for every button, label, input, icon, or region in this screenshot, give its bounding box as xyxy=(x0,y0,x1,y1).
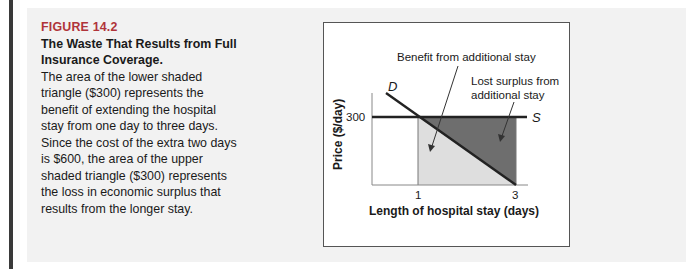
x-tick-3: 3 xyxy=(512,189,518,201)
x-axis-title: Length of hospital stay (days) xyxy=(369,204,539,218)
x-tick-1: 1 xyxy=(415,189,421,201)
chart: Benefit from additional stay Lost surplu… xyxy=(0,0,694,269)
y-axis-title: Price ($/day) xyxy=(331,99,345,170)
supply-label: S xyxy=(532,110,541,125)
annotation-benefit: Benefit from additional stay xyxy=(397,51,536,63)
demand-label: D xyxy=(388,79,397,94)
annotation-lost-surplus-line2: additional stay xyxy=(471,89,545,101)
annotation-lost-surplus-line1: Lost surplus from xyxy=(471,75,559,87)
y-tick-300: 300 xyxy=(346,111,365,123)
